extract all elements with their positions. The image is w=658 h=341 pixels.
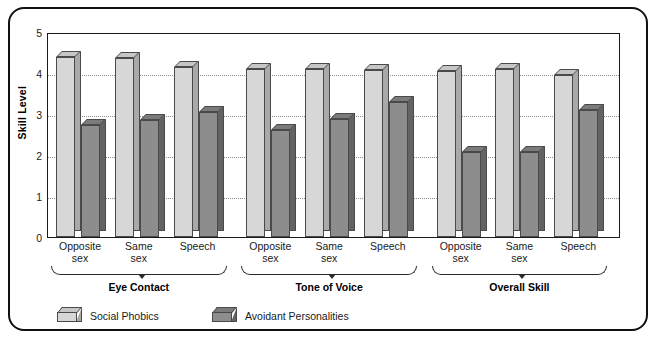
legend-label: Social Phobics: [90, 310, 159, 322]
bar-social-phobics: [437, 71, 456, 237]
bar-face: [140, 120, 159, 237]
legend-swatch-dark: [212, 307, 238, 322]
bar-avoidant-personalities: [462, 152, 481, 237]
bar-side: [539, 146, 545, 231]
bar-face: [462, 152, 481, 237]
bar-face: [389, 102, 408, 237]
bar-avoidant-personalities: [271, 130, 290, 237]
bar-face: [495, 69, 514, 237]
bar-social-phobics: [364, 70, 383, 237]
bar-face: [81, 125, 100, 237]
bar-side: [100, 119, 106, 231]
bar-social-phobics: [174, 67, 193, 237]
bar-face: [115, 58, 134, 237]
bar-social-phobics: [56, 57, 75, 237]
bar-avoidant-personalities: [330, 119, 349, 237]
bar-side: [290, 124, 296, 231]
bar-avoidant-personalities: [520, 152, 539, 237]
bar-avoidant-personalities: [389, 102, 408, 237]
bar-side: [408, 96, 414, 231]
legend-swatch-lfront: [57, 312, 77, 322]
legend-swatch-lfront: [212, 312, 232, 322]
bar-avoidant-personalities: [199, 112, 218, 237]
bar-face: [199, 112, 218, 237]
bar-face: [579, 110, 598, 237]
legend-swatch-light: [57, 307, 83, 322]
bar-face: [520, 152, 539, 237]
bar-social-phobics: [554, 75, 573, 237]
bar-avoidant-personalities: [579, 110, 598, 237]
bar-side: [598, 104, 604, 231]
bar-social-phobics: [115, 58, 134, 237]
figure-container: Skill Level 012345 Opposite sexSame sexS…: [0, 0, 658, 341]
bar-social-phobics: [305, 69, 324, 237]
bar-face: [305, 69, 324, 237]
bar-face: [246, 69, 265, 237]
bar-side: [481, 146, 487, 231]
legend-label: Avoidant Personalities: [245, 310, 349, 322]
bar-social-phobics: [495, 69, 514, 237]
bar-face: [174, 67, 193, 237]
bar-side: [349, 113, 355, 231]
bar-face: [554, 75, 573, 237]
bar-side: [218, 106, 224, 231]
bar-avoidant-personalities: [81, 125, 100, 237]
bar-side: [159, 114, 165, 231]
bar-social-phobics: [246, 69, 265, 237]
bar-face: [56, 57, 75, 237]
bar-face: [330, 119, 349, 237]
bar-avoidant-personalities: [140, 120, 159, 237]
bar-face: [271, 130, 290, 237]
bar-face: [364, 70, 383, 237]
bar-face: [437, 71, 456, 237]
